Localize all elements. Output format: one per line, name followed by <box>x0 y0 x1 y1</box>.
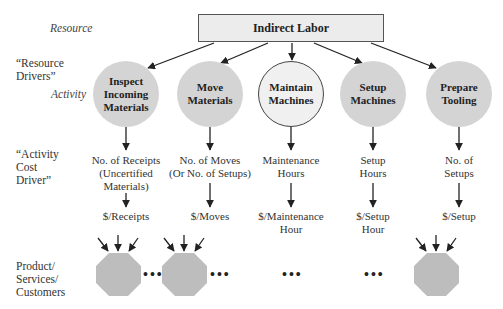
activity-label-line: Setup <box>350 81 395 94</box>
activity-label-line: Incoming <box>103 88 148 101</box>
resource-box-indirect-labor: Indirect Labor <box>198 14 384 42</box>
activity-label-line: Tooling <box>440 94 477 107</box>
product-octagon-1 <box>96 235 141 296</box>
cost-driver-line: Setups <box>404 167 503 180</box>
activity-label-line: Machines <box>268 94 313 107</box>
activity-label-line: Prepare <box>440 81 477 94</box>
row-label-products-line2: Services/ <box>16 273 65 286</box>
row-label-resource-drivers-line2: Drivers” <box>16 70 64 83</box>
activity-label-line: Materials <box>103 101 148 114</box>
row-label-resource-drivers-line1: “Resource <box>16 57 64 70</box>
product-octagon-2 <box>162 235 207 296</box>
cost-driver-line: Materials) <box>71 180 181 193</box>
activity-inspect-incoming-materials: InspectIncomingMaterials <box>93 61 159 127</box>
ellipsis-2: ••• <box>210 267 231 283</box>
row-label-products-line3: Customers <box>16 286 65 299</box>
cost-driver-line: No. of <box>404 154 503 167</box>
row-label-acd-line1: “Activity <box>16 148 59 161</box>
row-label-products-line1: Product/ <box>16 260 65 273</box>
row-label-activity: Activity <box>51 88 86 101</box>
activity-move-materials: MoveMaterials <box>177 61 243 127</box>
activity-cost-driver-arrows <box>126 127 459 150</box>
activity-setup-machines: SetupMachines <box>340 61 406 127</box>
ellipsis-4: ••• <box>364 267 385 283</box>
activity-label-line: Machines <box>350 94 395 107</box>
ellipsis-1: ••• <box>143 267 164 283</box>
row-label-resource-drivers: “Resource Drivers” <box>16 57 64 83</box>
activity-label-line: Maintain <box>268 81 313 94</box>
product-octagon-3 <box>414 235 459 296</box>
activity-prepare-tooling: PrepareTooling <box>426 61 492 127</box>
rate-line: Hour <box>318 223 428 236</box>
cost-driver-setups: No. of Setups <box>404 154 503 180</box>
rate-line: $/Setup <box>404 210 503 223</box>
activity-label-line: Inspect <box>103 75 148 88</box>
row-label-acd-line3: Driver” <box>16 174 59 187</box>
activity-maintain-machines: MaintainMachines <box>258 61 324 127</box>
rate-setup: $/Setup <box>404 210 503 223</box>
activity-label-line: Move <box>187 81 232 94</box>
activity-label-line: Materials <box>187 94 232 107</box>
row-label-products: Product/ Services/ Customers <box>16 260 65 299</box>
row-label-activity-cost-driver: “Activity Cost Driver” <box>16 148 59 187</box>
row-label-resource: Resource <box>50 22 92 35</box>
row-label-acd-line2: Cost <box>16 161 59 174</box>
ellipsis-3: ••• <box>282 267 303 283</box>
